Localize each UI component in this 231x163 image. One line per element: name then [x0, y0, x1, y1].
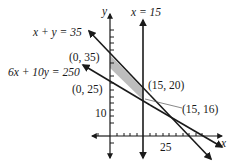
y-axis-label: y — [101, 5, 108, 18]
vertex-15-16: (15, 16) — [182, 103, 219, 116]
y-tick-label: 10 — [95, 107, 107, 119]
vertex-0-25: (0, 25) — [72, 83, 103, 96]
feasible-region — [110, 55, 143, 100]
label-x-15: x = 15 — [130, 6, 161, 18]
vertex-15-20: (15, 20) — [148, 79, 185, 92]
vertex-0-35: (0, 35) — [69, 51, 100, 64]
x-tick-label: 25 — [160, 141, 172, 153]
label-x-plus-y-35: x + y = 35 — [32, 26, 82, 39]
lp-graph: y x 25 10 x = 15 x + y = 35 6x + 10y = 2… — [0, 0, 231, 163]
label-6x-10y-250: 6x + 10y = 250 — [8, 66, 80, 79]
x-axis-label: x — [220, 137, 227, 149]
leader-15-16 — [145, 99, 182, 108]
